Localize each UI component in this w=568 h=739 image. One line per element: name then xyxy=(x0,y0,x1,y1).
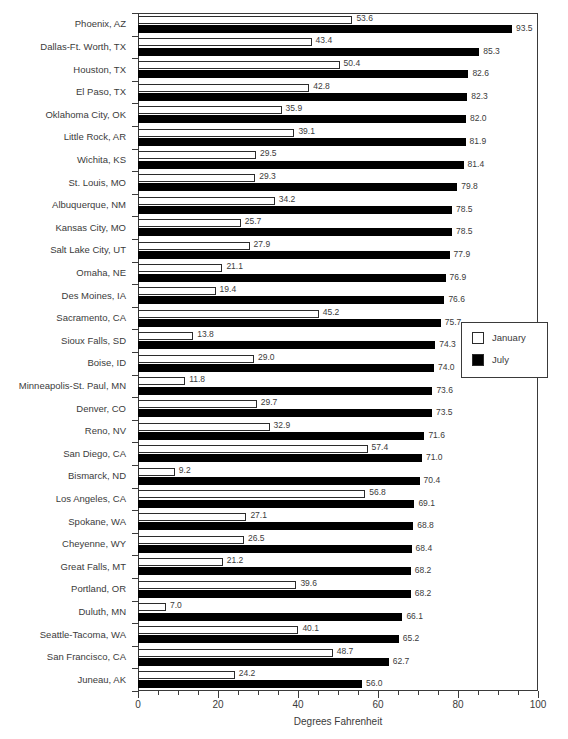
bar-july xyxy=(138,161,464,169)
bar-january xyxy=(138,16,352,24)
bar-value-label-july: 66.1 xyxy=(406,612,423,621)
bar-value-label-january: 42.8 xyxy=(313,82,330,91)
bar-july xyxy=(138,680,362,688)
legend-item-january: January xyxy=(472,332,526,344)
legend-label-january: January xyxy=(492,333,526,343)
bar-july xyxy=(138,183,457,191)
x-axis-minor-tick xyxy=(318,691,319,695)
legend-label-july: July xyxy=(492,355,509,365)
bar-value-label-january: 13.8 xyxy=(197,330,214,339)
category-label: Little Rock, AR xyxy=(64,132,126,142)
bar-january xyxy=(138,61,340,69)
bar-july xyxy=(138,364,434,372)
bar-value-label-july: 73.5 xyxy=(436,408,453,417)
x-axis-minor-tick xyxy=(418,691,419,695)
category-label: Great Falls, MT xyxy=(61,562,126,572)
x-axis-minor-tick xyxy=(158,691,159,695)
bar-value-label-january: 32.9 xyxy=(274,421,291,430)
bar-july xyxy=(138,658,389,666)
bar-value-label-january: 45.2 xyxy=(323,308,340,317)
bar-july xyxy=(138,613,402,621)
bar-july xyxy=(138,48,479,56)
category-label: Dallas-Ft. Worth, TX xyxy=(40,42,126,52)
bar-value-label-january: 27.1 xyxy=(250,511,267,520)
bar-value-label-july: 78.5 xyxy=(456,205,473,214)
bar-value-label-july: 68.2 xyxy=(415,566,432,575)
bar-value-label-july: 81.4 xyxy=(468,160,485,169)
bar-july xyxy=(138,296,444,304)
bar-value-label-january: 34.2 xyxy=(279,195,296,204)
bar-july xyxy=(138,138,466,146)
x-axis-major-tick xyxy=(138,691,139,698)
bar-january xyxy=(138,106,282,114)
bar-january xyxy=(138,671,235,679)
bar-january xyxy=(138,513,246,521)
category-axis: Phoenix, AZDallas-Ft. Worth, TXHouston, … xyxy=(0,13,132,691)
bar-january xyxy=(138,468,175,476)
category-label: Houston, TX xyxy=(73,65,126,75)
bar-july xyxy=(138,567,411,575)
x-axis-minor-tick xyxy=(278,691,279,695)
bar-value-label-july: 56.0 xyxy=(366,679,383,688)
bar-value-label-january: 39.6 xyxy=(300,579,317,588)
bar-value-label-january: 29.3 xyxy=(259,172,276,181)
bar-july xyxy=(138,409,432,417)
x-axis-minor-tick xyxy=(338,691,339,695)
category-label: San Francisco, CA xyxy=(47,652,126,662)
bar-value-label-january: 21.2 xyxy=(227,556,244,565)
bar-value-label-january: 29.0 xyxy=(258,353,275,362)
bar-value-label-january: 43.4 xyxy=(316,36,333,45)
bar-july xyxy=(138,228,452,236)
bar-january xyxy=(138,287,216,295)
bar-january xyxy=(138,38,312,46)
category-label: Portland, OR xyxy=(71,584,126,594)
bar-value-label-july: 82.6 xyxy=(472,69,489,78)
category-label: Salt Lake City, UT xyxy=(50,245,126,255)
bar-value-label-july: 82.3 xyxy=(471,92,488,101)
category-label: Juneau, AK xyxy=(77,675,126,685)
category-label: Kansas City, MO xyxy=(55,223,126,233)
bar-value-label-july: 73.6 xyxy=(436,386,453,395)
bar-january xyxy=(138,536,244,544)
category-label: Minneapolis-St. Paul, MN xyxy=(19,381,126,391)
bar-value-label-july: 85.3 xyxy=(483,47,500,56)
x-axis-minor-tick xyxy=(358,691,359,695)
bar-january xyxy=(138,355,254,363)
bar-july xyxy=(138,477,420,485)
bar-january xyxy=(138,603,166,611)
bar-january xyxy=(138,219,241,227)
bar-value-label-july: 79.8 xyxy=(461,182,478,191)
bar-january xyxy=(138,242,250,250)
bar-value-label-january: 48.7 xyxy=(337,647,354,656)
bar-january xyxy=(138,310,319,318)
category-label: Denver, CO xyxy=(76,404,126,414)
white-square-icon xyxy=(472,332,484,344)
category-label: Sioux Falls, SD xyxy=(61,336,126,346)
bar-january xyxy=(138,264,222,272)
bar-value-label-january: 26.5 xyxy=(248,534,265,543)
category-label: Spokane, WA xyxy=(68,517,126,527)
x-axis-minor-tick xyxy=(198,691,199,695)
category-label: Reno, NV xyxy=(85,426,126,436)
bar-value-label-july: 62.7 xyxy=(393,657,410,666)
legend-item-july: July xyxy=(472,354,509,366)
category-label: Bismarck, ND xyxy=(68,471,126,481)
bar-value-label-january: 56.8 xyxy=(369,488,386,497)
x-axis-tick-label: 40 xyxy=(292,700,303,710)
bar-value-label-january: 9.2 xyxy=(179,466,191,475)
bar-value-label-january: 40.1 xyxy=(302,624,319,633)
x-axis-minor-tick xyxy=(238,691,239,695)
bar-value-label-january: 7.0 xyxy=(170,601,182,610)
bar-value-label-january: 21.1 xyxy=(226,262,243,271)
bar-value-label-july: 69.1 xyxy=(418,499,435,508)
category-label: Omaha, NE xyxy=(76,268,126,278)
bar-july xyxy=(138,115,466,123)
bar-value-label-january: 29.7 xyxy=(261,398,278,407)
x-axis-minor-tick xyxy=(498,691,499,695)
bar-january xyxy=(138,626,298,634)
category-label: St. Louis, MO xyxy=(68,178,126,188)
bar-january xyxy=(138,129,294,137)
bar-value-label-july: 78.5 xyxy=(456,227,473,236)
bar-july xyxy=(138,70,468,78)
bar-value-label-july: 75.7 xyxy=(445,318,462,327)
